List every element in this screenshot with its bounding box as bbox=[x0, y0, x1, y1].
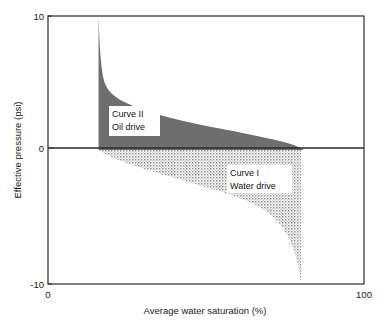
ytick-label-0: 0 bbox=[39, 143, 44, 154]
y-axis-title: Effective pressure (psi) bbox=[12, 102, 23, 199]
curve-i-annotation: Curve I Water drive bbox=[227, 165, 292, 193]
curve-i-label-line2: Water drive bbox=[230, 181, 276, 191]
x-axis-title: Average water saturation (%) bbox=[144, 305, 267, 316]
chart-svg: 10 0 -10 0 100 Average water saturation … bbox=[0, 0, 389, 329]
curve-i-label-line1: Curve I bbox=[230, 168, 259, 178]
curve-ii-label-line1: Curve II bbox=[112, 109, 144, 119]
xtick-label-100: 100 bbox=[356, 289, 372, 300]
xtick-label-0: 0 bbox=[45, 289, 50, 300]
ytick-label-minus10: -10 bbox=[30, 279, 44, 290]
curve-ii-label-line2: Oil drive bbox=[112, 122, 145, 132]
ytick-label-10: 10 bbox=[33, 11, 44, 22]
chart-figure: 10 0 -10 0 100 Average water saturation … bbox=[0, 0, 389, 329]
curve-ii-annotation: Curve II Oil drive bbox=[109, 106, 160, 136]
